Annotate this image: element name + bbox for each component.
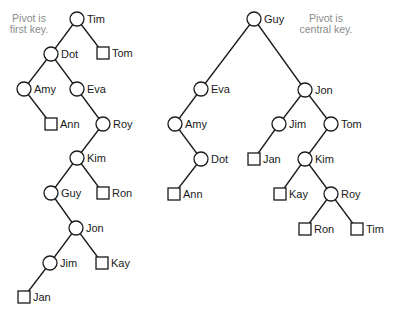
node-label: Amy <box>34 83 57 95</box>
node-label: Kim <box>87 152 106 164</box>
internal-node-jim: Jim <box>43 256 77 270</box>
left-note: Pivot isfirst key. <box>10 12 48 35</box>
circle-node-icon <box>247 12 261 26</box>
leaf-node-jan: Jan <box>18 291 51 303</box>
square-leaf-icon <box>168 188 180 200</box>
leaf-node-ron: Ron <box>97 187 132 199</box>
left-tree-nodes: TimDotTomAmyEvaAnnRoyKimGuyRonJonJimKayJ… <box>17 12 133 303</box>
internal-node-guy: Guy <box>247 12 285 26</box>
node-label: Amy <box>185 118 208 130</box>
circle-node-icon <box>17 82 31 96</box>
circle-node-icon <box>96 117 110 131</box>
node-label: Jan <box>33 291 51 303</box>
node-label: Tim <box>366 223 384 235</box>
node-label: Dot <box>61 48 78 60</box>
internal-node-eva: Eva <box>70 82 107 96</box>
leaf-node-ann: Ann <box>45 118 80 130</box>
square-leaf-icon <box>18 291 30 303</box>
circle-node-icon <box>324 187 338 201</box>
annotations-layer: Pivot isfirst key.Pivot iscentral key. <box>10 12 353 35</box>
leaf-node-ron: Ron <box>299 223 334 235</box>
node-label: Jan <box>263 153 281 165</box>
internal-node-dot: Dot <box>44 47 78 61</box>
square-leaf-icon <box>97 187 109 199</box>
leaf-node-tim: Tim <box>351 223 384 235</box>
note-line: first key. <box>10 23 48 35</box>
square-leaf-icon <box>96 257 108 269</box>
internal-node-amy: Amy <box>17 82 57 96</box>
right-note: Pivot iscentral key. <box>300 12 353 35</box>
node-label: Dot <box>211 153 228 165</box>
leaf-node-kay: Kay <box>274 188 308 200</box>
edge-guy-eva <box>201 19 254 89</box>
node-label: Jim <box>60 257 77 269</box>
node-label: Kay <box>111 257 130 269</box>
circle-node-icon <box>298 83 312 97</box>
circle-node-icon <box>44 47 58 61</box>
circle-node-icon <box>44 186 58 200</box>
node-label: Jim <box>289 118 306 130</box>
circle-node-icon <box>194 82 208 96</box>
node-label: Kay <box>289 188 308 200</box>
binary-trees-diagram: TimDotTomAmyEvaAnnRoyKimGuyRonJonJimKayJ… <box>0 0 397 314</box>
node-label: Guy <box>61 187 82 199</box>
square-leaf-icon <box>351 223 363 235</box>
node-label: Ron <box>314 223 334 235</box>
node-label: Ann <box>183 188 203 200</box>
internal-node-tom: Tom <box>324 117 362 131</box>
leaf-node-kay: Kay <box>96 257 130 269</box>
node-label: Guy <box>264 13 285 25</box>
internal-node-jim: Jim <box>272 117 306 131</box>
circle-node-icon <box>272 117 286 131</box>
node-label: Tom <box>341 118 362 130</box>
internal-node-eva: Eva <box>194 82 231 96</box>
internal-node-kim: Kim <box>70 151 106 165</box>
square-leaf-icon <box>248 153 260 165</box>
diagram-canvas: TimDotTomAmyEvaAnnRoyKimGuyRonJonJimKayJ… <box>0 0 397 314</box>
internal-node-roy: Roy <box>96 117 133 131</box>
node-label: Roy <box>341 188 361 200</box>
internal-node-tim: Tim <box>70 12 105 26</box>
internal-node-jon: Jon <box>69 221 104 235</box>
node-label: Jon <box>86 222 104 234</box>
square-leaf-icon <box>45 118 57 130</box>
circle-node-icon <box>194 152 208 166</box>
square-leaf-icon <box>299 223 311 235</box>
internal-node-dot: Dot <box>194 152 228 166</box>
node-label: Tim <box>87 13 105 25</box>
square-leaf-icon <box>274 188 286 200</box>
node-label: Eva <box>87 83 107 95</box>
node-label: Tom <box>112 47 133 59</box>
circle-node-icon <box>70 82 84 96</box>
note-line: central key. <box>300 23 353 35</box>
leaf-node-ann: Ann <box>168 188 203 200</box>
internal-node-jon: Jon <box>298 83 333 97</box>
node-label: Jon <box>315 84 333 96</box>
internal-node-kim: Kim <box>298 152 334 166</box>
circle-node-icon <box>69 221 83 235</box>
circle-node-icon <box>324 117 338 131</box>
internal-node-roy: Roy <box>324 187 361 201</box>
internal-node-guy: Guy <box>44 186 82 200</box>
node-label: Kim <box>315 153 334 165</box>
node-label: Roy <box>113 118 133 130</box>
circle-node-icon <box>43 256 57 270</box>
circle-node-icon <box>70 151 84 165</box>
circle-node-icon <box>70 12 84 26</box>
circle-node-icon <box>298 152 312 166</box>
leaf-node-jan: Jan <box>248 153 281 165</box>
circle-node-icon <box>168 117 182 131</box>
leaf-node-tom: Tom <box>97 47 133 59</box>
internal-node-amy: Amy <box>168 117 208 131</box>
edge-guy-jon <box>254 19 305 90</box>
right-tree-nodes: GuyEvaJonAmyJimTomDotJanKimAnnKayRoyRonT… <box>168 12 384 235</box>
node-label: Eva <box>211 83 231 95</box>
square-leaf-icon <box>97 47 109 59</box>
nodes-layer: TimDotTomAmyEvaAnnRoyKimGuyRonJonJimKayJ… <box>17 12 384 303</box>
node-label: Ron <box>112 187 132 199</box>
node-label: Ann <box>60 118 80 130</box>
